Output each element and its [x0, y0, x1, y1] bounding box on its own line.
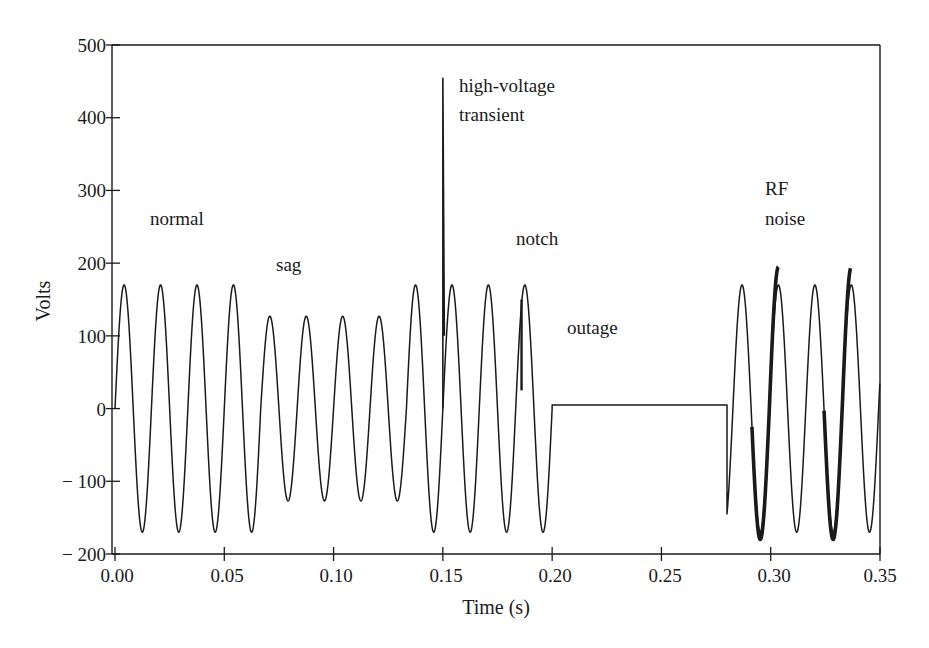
x-tick-label: 0.35 — [863, 565, 896, 586]
y-tick-label: − 100 — [62, 471, 106, 492]
x-tick-label: 0.10 — [319, 565, 352, 586]
y-ticks — [106, 45, 120, 554]
annotations: normal sag high-voltage transient notch … — [150, 75, 805, 338]
y-tick-label: 100 — [78, 326, 107, 347]
x-tick-label: 0.20 — [538, 565, 571, 586]
power-disturbance-chart: 500 400 300 200 100 0 − 100 − 200 0.00 0… — [0, 0, 929, 648]
annotation-high-voltage: high-voltage — [459, 75, 555, 96]
y-tick-labels: 500 400 300 200 100 0 − 100 − 200 — [62, 35, 106, 565]
x-tick-label: 0.05 — [210, 565, 243, 586]
y-tick-label: 500 — [78, 35, 107, 56]
annotation-transient: transient — [459, 104, 525, 125]
high-voltage-transient-spike — [443, 78, 445, 409]
y-tick-label: 0 — [97, 399, 107, 420]
x-tick-label: 0.15 — [429, 565, 462, 586]
x-tick-label: 0.25 — [648, 565, 681, 586]
annotation-outage: outage — [567, 317, 618, 338]
x-tick-labels: 0.00 0.05 0.10 0.15 0.20 0.25 0.30 0.35 — [100, 565, 896, 586]
annotation-sag: sag — [276, 254, 302, 275]
y-tick-label: 200 — [78, 253, 107, 274]
y-tick-label: − 200 — [62, 544, 106, 565]
x-axis-title: Time (s) — [462, 596, 530, 619]
annotation-noise: noise — [765, 208, 805, 229]
y-tick-label: 400 — [78, 107, 107, 128]
x-tick-label: 0.30 — [757, 565, 790, 586]
annotation-normal: normal — [150, 208, 204, 229]
annotation-rf: RF — [765, 178, 788, 199]
annotation-notch: notch — [516, 228, 559, 249]
y-axis-title: Volts — [32, 280, 54, 321]
y-tick-label: 300 — [78, 180, 107, 201]
x-tick-label: 0.00 — [100, 565, 133, 586]
